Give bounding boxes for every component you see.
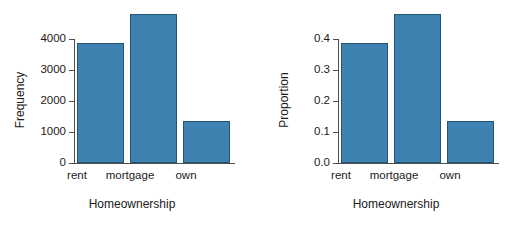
y-tick-label: 0.1	[314, 126, 330, 138]
y-tick-label: 0	[60, 157, 66, 169]
x-tick-label-own: own	[161, 170, 211, 182]
x-axis-title-left: Homeownership	[0, 198, 264, 210]
plot-area-right	[338, 8, 496, 163]
bar-rent	[77, 43, 124, 163]
y-tick-label: 0.0	[314, 157, 330, 169]
y-tick-mark	[333, 163, 338, 164]
x-axis-title-right: Homeownership	[264, 198, 528, 210]
bar-rent	[341, 43, 388, 163]
y-tick-label: 1000	[40, 126, 66, 138]
x-axis-line-right	[338, 163, 499, 164]
frequency-bar-chart: Frequency 0 1000 2000 3000 4000	[0, 0, 264, 229]
y-tick-label: 3000	[40, 64, 66, 76]
plot-area-left	[74, 8, 232, 163]
y-tick-mark	[69, 163, 74, 164]
y-tick-label: 0.3	[314, 64, 330, 76]
x-tick-label-rent: rent	[55, 170, 99, 182]
x-tick-label-mortgage: mortgage	[364, 170, 424, 182]
y-axis-title-frequency: Frequency	[12, 50, 28, 150]
figure-canvas: Frequency 0 1000 2000 3000 4000	[0, 0, 528, 229]
bar-mortgage	[130, 14, 177, 163]
y-tick-label: 0.4	[314, 33, 330, 45]
x-tick-label-mortgage: mortgage	[100, 170, 160, 182]
x-axis-line-left	[74, 163, 235, 164]
y-tick-label: 4000	[40, 33, 66, 45]
y-axis-title-proportion: Proportion	[276, 50, 292, 150]
bar-own	[183, 121, 230, 163]
proportion-bar-chart: Proportion 0.0 0.1 0.2 0.3 0.4	[264, 0, 528, 229]
bar-own	[447, 121, 494, 163]
y-tick-label: 0.2	[314, 95, 330, 107]
y-tick-label: 2000	[40, 95, 66, 107]
x-tick-label-own: own	[425, 170, 475, 182]
bar-mortgage	[394, 14, 441, 163]
x-tick-label-rent: rent	[319, 170, 363, 182]
